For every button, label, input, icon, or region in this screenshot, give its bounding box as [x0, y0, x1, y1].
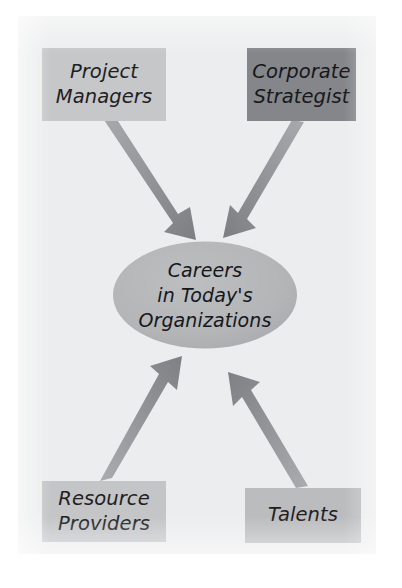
node-resource-providers-label: Resource Providers [58, 487, 150, 535]
node-talents[interactable]: Talents [245, 488, 361, 543]
node-corporate-strategist-label: Corporate Strategist [252, 60, 350, 108]
node-project-managers[interactable]: Project Managers [42, 48, 166, 121]
node-project-managers-label: Project Managers [56, 60, 152, 108]
node-hub-label: Careers in Today's Organizations [138, 258, 271, 332]
node-hub[interactable]: Careers in Today's Organizations [113, 242, 297, 349]
node-resource-providers[interactable]: Resource Providers [42, 481, 166, 542]
diagram-canvas: Careers in Today's Organizations Project… [0, 0, 402, 588]
node-talents-label: Talents [268, 503, 338, 527]
arrow-project-managers-to-hub [104, 118, 196, 240]
arrow-corporate-strategist-to-hub [223, 120, 304, 238]
node-corporate-strategist[interactable]: Corporate Strategist [247, 48, 356, 121]
arrow-talents-to-hub [228, 372, 308, 488]
arrow-resource-providers-to-hub [100, 356, 182, 481]
